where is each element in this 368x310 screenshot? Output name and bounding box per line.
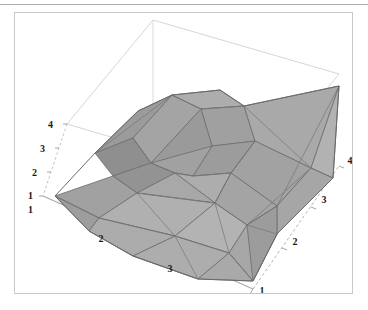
z-tick-label: 4 xyxy=(48,119,53,130)
z-axis-line xyxy=(39,124,67,196)
x-tick-label: 1 xyxy=(28,204,33,215)
y-tick-label: 4 xyxy=(348,155,353,166)
z-tick-label: 1 xyxy=(28,190,33,201)
x-tick-label: 2 xyxy=(99,233,104,244)
surface-mesh[interactable] xyxy=(55,86,339,281)
y-tick-label: 3 xyxy=(322,194,327,205)
top-divider-rule xyxy=(0,4,368,5)
y-tick-label: 2 xyxy=(293,236,298,247)
screenshot-root: 4 3 2 1 1 2 3 4 1 2 3 4 xyxy=(0,0,368,310)
z-tick-label: 2 xyxy=(32,167,37,178)
x-tick-label: 3 xyxy=(168,263,173,274)
figure-panel: 4 3 2 1 1 2 3 4 1 2 3 4 xyxy=(14,12,353,294)
y-tick-label: 1 xyxy=(260,285,265,293)
z-tick-label: 3 xyxy=(40,143,45,154)
surface-plot-3d[interactable]: 4 3 2 1 1 2 3 4 1 2 3 4 xyxy=(15,13,352,293)
